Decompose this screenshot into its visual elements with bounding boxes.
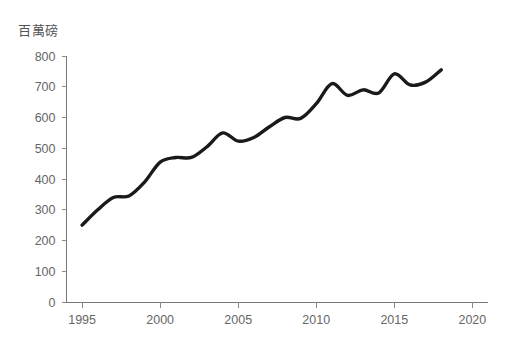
x-tick-label: 2005	[224, 313, 252, 327]
y-tick-label: 700	[35, 80, 56, 94]
y-tick-label: 100	[35, 265, 56, 279]
y-tick-label: 400	[35, 173, 56, 187]
x-tick-label: 2015	[380, 313, 408, 327]
y-tick-label: 300	[35, 203, 56, 217]
y-tick-label: 200	[35, 234, 56, 248]
y-axis: 0100200300400500600700800	[35, 50, 67, 310]
y-tick-label: 600	[35, 111, 56, 125]
y-tick-group: 0100200300400500600700800	[35, 50, 67, 310]
x-tick-label: 2010	[302, 313, 330, 327]
chart-container: 百萬磅 0100200300400500600700800 1995200020…	[0, 0, 512, 350]
line-chart-plot: 0100200300400500600700800 19952000200520…	[0, 0, 512, 350]
y-tick-label: 500	[35, 142, 56, 156]
x-tick-label: 1995	[68, 313, 96, 327]
x-tick-label: 2000	[146, 313, 174, 327]
y-tick-label: 0	[49, 296, 56, 310]
x-tick-label: 2020	[458, 313, 486, 327]
data-series-line	[82, 70, 441, 225]
x-tick-group: 199520002005201020152020	[68, 302, 486, 327]
y-tick-label: 800	[35, 50, 56, 64]
x-axis: 199520002005201020152020	[67, 302, 489, 327]
